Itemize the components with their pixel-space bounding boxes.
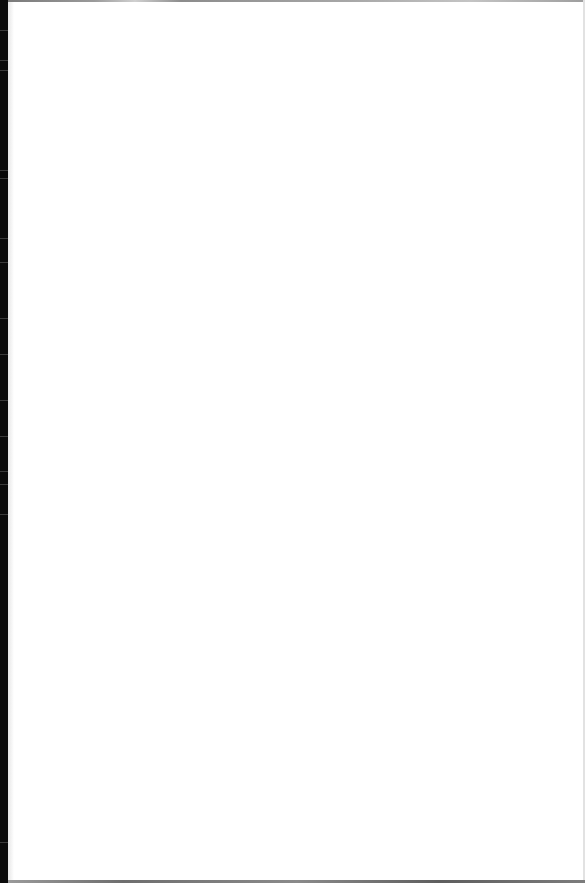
scan-left-edge: [0, 0, 8, 883]
blank-document-page: [14, 2, 583, 880]
